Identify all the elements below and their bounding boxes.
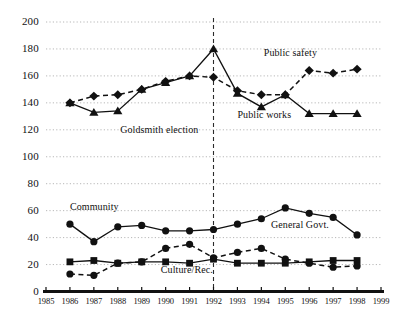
annotation-culture-rec: Culture/Rec. [161, 264, 213, 275]
y-tick-label-40: 40 [13, 232, 39, 243]
x-tick-label-1987: 1987 [81, 297, 107, 306]
data-point-1997 [330, 264, 337, 271]
y-tick-label-80: 80 [13, 178, 39, 189]
data-point-1994 [258, 260, 265, 267]
data-point-1987 [89, 92, 98, 101]
x-tick-label-1993: 1993 [224, 297, 250, 306]
data-point-1998 [353, 231, 360, 238]
data-point-1990 [162, 245, 169, 252]
data-point-1993 [234, 221, 241, 228]
x-tick-label-1996: 1996 [296, 297, 322, 306]
data-point-1989 [138, 222, 145, 229]
x-tick-label-1992: 1992 [201, 297, 227, 306]
data-point-1995 [282, 256, 289, 263]
x-axis [43, 287, 384, 292]
y-tick-label-60: 60 [13, 205, 39, 216]
x-tick-label-1988: 1988 [105, 297, 131, 306]
data-point-1986 [66, 221, 73, 228]
annotation-goldsmith-election: Goldsmith election [120, 124, 198, 135]
x-tick-label-1994: 1994 [248, 297, 274, 306]
data-point-1997 [329, 69, 338, 78]
x-tick-label-1998: 1998 [344, 297, 370, 306]
x-tick-label-1989: 1989 [129, 297, 155, 306]
x-tick-label-1995: 1995 [272, 297, 298, 306]
annotation-general-govt: General Govt. [271, 219, 329, 230]
y-tick-label-200: 200 [13, 16, 39, 27]
x-tick-label-1997: 1997 [320, 297, 346, 306]
data-point-1994 [258, 215, 265, 222]
data-point-1991 [186, 241, 193, 248]
data-point-1987 [90, 257, 97, 264]
data-point-1997 [330, 257, 337, 264]
data-point-1997 [330, 214, 337, 221]
series-public-safety [65, 65, 361, 107]
x-tick-label-1986: 1986 [57, 297, 83, 306]
y-tick-label-160: 160 [13, 70, 39, 81]
y-tick-label-120: 120 [13, 124, 39, 135]
x-tick-label-1999: 1999 [368, 297, 394, 306]
data-point-1992 [210, 254, 217, 261]
annotation-public-safety: Public safety [264, 47, 317, 58]
data-point-1994 [257, 90, 266, 99]
x-tick-label-1991: 1991 [177, 297, 203, 306]
data-point-1995 [282, 204, 289, 211]
data-point-1990 [162, 227, 169, 234]
y-tick-label-0: 0 [13, 286, 39, 297]
data-point-1989 [138, 258, 145, 265]
x-tick-label-1990: 1990 [153, 297, 179, 306]
data-point-1988 [114, 260, 121, 267]
data-point-1996 [306, 210, 313, 217]
data-point-1986 [67, 258, 74, 265]
data-point-1996 [306, 260, 313, 267]
annotation-public-works: Public works [237, 109, 291, 120]
data-point-1987 [90, 238, 97, 245]
y-tick-label-20: 20 [13, 259, 39, 270]
x-tick-label-1985: 1985 [33, 297, 59, 306]
data-point-1993 [234, 260, 241, 267]
y-tick-label-100: 100 [13, 151, 39, 162]
data-point-1992 [209, 45, 218, 53]
data-point-1996 [305, 66, 314, 75]
data-point-1991 [186, 227, 193, 234]
y-tick-label-140: 140 [13, 97, 39, 108]
data-point-1998 [353, 262, 360, 269]
data-point-1988 [114, 223, 121, 230]
annotation-community: Community [70, 201, 119, 212]
data-point-1988 [113, 90, 122, 99]
data-point-1986 [66, 270, 73, 277]
data-point-1987 [90, 272, 97, 279]
y-tick-label-180: 180 [13, 43, 39, 54]
data-point-1998 [352, 65, 361, 74]
data-point-1992 [210, 226, 217, 233]
data-point-1993 [234, 249, 241, 256]
data-point-1994 [258, 245, 265, 252]
data-point-1992 [209, 73, 218, 82]
